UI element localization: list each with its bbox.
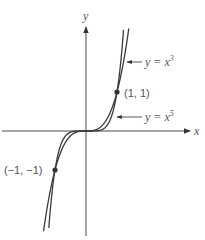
cube-annotation-label: y = x3 <box>144 54 174 69</box>
point-1-1-label: (1, 1) <box>124 87 150 99</box>
point-1-1 <box>114 89 119 94</box>
chart: x y (1, 1) (−1, −1) y = x3 y = x5 <box>0 0 205 240</box>
fifth-annotation-label: y = x5 <box>144 109 174 124</box>
point-neg1-neg1 <box>52 167 57 172</box>
x-axis-label: x <box>193 124 200 138</box>
y-axis-label: y <box>82 9 89 23</box>
point-neg1-neg1-label: (−1, −1) <box>4 164 43 176</box>
